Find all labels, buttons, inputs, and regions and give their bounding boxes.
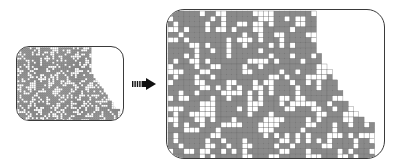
right-arrow-icon <box>132 78 156 90</box>
large-grid-panel <box>166 9 385 159</box>
large-automaton-grid <box>167 10 385 159</box>
small-automaton-grid <box>17 47 124 121</box>
small-grid-panel <box>16 46 124 121</box>
